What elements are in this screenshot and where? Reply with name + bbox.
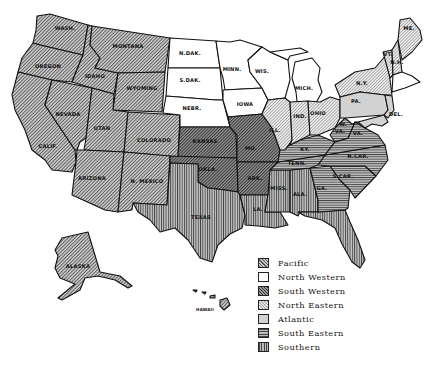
label-wva-w: W. xyxy=(339,121,347,127)
label-del: DEL. xyxy=(389,111,403,117)
legend-swatch-south-western xyxy=(258,286,269,296)
label-texas: TEXAS xyxy=(191,214,211,220)
label-ill: ILL. xyxy=(269,127,280,133)
label-kansas: KANSAS xyxy=(192,138,217,144)
legend-label: South Western xyxy=(278,286,346,296)
label-hawaii: HAWAII xyxy=(196,307,214,312)
legend-swatch-southern xyxy=(258,342,269,352)
legend-label: Southern xyxy=(278,342,320,352)
legend-label: Atlantic xyxy=(278,314,314,324)
label-nh: N.H. xyxy=(390,59,403,65)
legend-swatch-atlantic xyxy=(258,314,269,324)
state-colorado[interactable] xyxy=(124,112,180,157)
legend-item-atlantic: Atlantic xyxy=(258,312,428,326)
legend: Pacific North Western South Western Nort… xyxy=(258,256,428,354)
legend-item-north-eastern: North Eastern xyxy=(258,298,428,312)
state-new-england-south[interactable] xyxy=(392,72,420,92)
label-wyoming: WYOMING xyxy=(127,85,158,91)
legend-swatch-north-western xyxy=(258,272,269,282)
legend-item-southern: Southern xyxy=(258,340,428,354)
legend-label: Pacific xyxy=(278,258,309,268)
label-ga: GA. xyxy=(317,185,328,191)
label-idaho: IDAHO xyxy=(85,73,105,79)
legend-label: North Eastern xyxy=(278,300,344,310)
label-nevada: NEVADA xyxy=(55,111,80,117)
legend-item-south-eastern: South Eastern xyxy=(258,326,428,340)
label-mo: MO. xyxy=(245,145,257,151)
label-tenn: TENN. xyxy=(288,160,307,166)
legend-item-north-western: North Western xyxy=(258,270,428,284)
legend-swatch-pacific xyxy=(258,258,269,268)
label-ind: IND. xyxy=(293,113,306,119)
label-oregon: OREGON xyxy=(35,63,61,69)
label-vt: VT. xyxy=(383,51,392,57)
label-ala: ALA. xyxy=(293,191,307,197)
label-arizona: ARIZONA xyxy=(78,175,106,181)
state-new-york[interactable] xyxy=(335,54,392,97)
label-utah: UTAN xyxy=(94,125,111,131)
label-alaska: ALASKA xyxy=(66,263,90,269)
label-colorado: COLORADO xyxy=(137,137,171,143)
state-south-dakota[interactable] xyxy=(166,68,223,100)
label-la: LA. xyxy=(253,206,263,212)
label-okla: OKLA. xyxy=(199,166,218,172)
state-pennsylvania[interactable] xyxy=(340,92,388,118)
legend-swatch-north-eastern xyxy=(258,300,269,310)
label-miss: MISS. xyxy=(270,185,287,191)
label-ark: ARK. xyxy=(248,175,263,181)
label-ny: N.Y. xyxy=(356,80,368,86)
legend-item-pacific: Pacific xyxy=(258,256,428,270)
label-nebr: NEBR. xyxy=(183,105,202,111)
state-montana[interactable] xyxy=(90,26,170,73)
label-wash: WASH. xyxy=(55,25,76,31)
label-ky: KY. xyxy=(300,146,310,152)
label-wis: WIS. xyxy=(255,68,269,74)
label-me: ME. xyxy=(403,25,414,31)
label-sdak: S.DAK. xyxy=(179,77,200,83)
label-calif: CALIF. xyxy=(38,143,57,149)
state-wyoming[interactable] xyxy=(113,72,165,112)
label-montana: MONTANA xyxy=(113,43,144,49)
legend-label: North Western xyxy=(278,272,346,282)
label-ndak: N.DAK. xyxy=(179,50,201,56)
label-minn: MINN. xyxy=(223,66,242,72)
label-wva-va: VA. xyxy=(335,128,345,134)
legend-label: South Eastern xyxy=(278,328,344,338)
label-pa: PA. xyxy=(351,98,361,104)
label-va: VA. xyxy=(353,130,363,136)
legend-item-south-western: South Western xyxy=(258,284,428,298)
legend-swatch-south-eastern xyxy=(258,328,269,338)
label-iowa: IOWA xyxy=(237,101,254,107)
label-mich: MICH. xyxy=(295,85,313,91)
label-scar: S.CAR. xyxy=(333,173,354,179)
label-ohio: OHIO xyxy=(310,110,326,116)
label-nmexico: N. MEXICO xyxy=(131,178,164,184)
state-arizona[interactable] xyxy=(72,150,124,212)
label-ncar: N.CAR. xyxy=(347,153,368,159)
